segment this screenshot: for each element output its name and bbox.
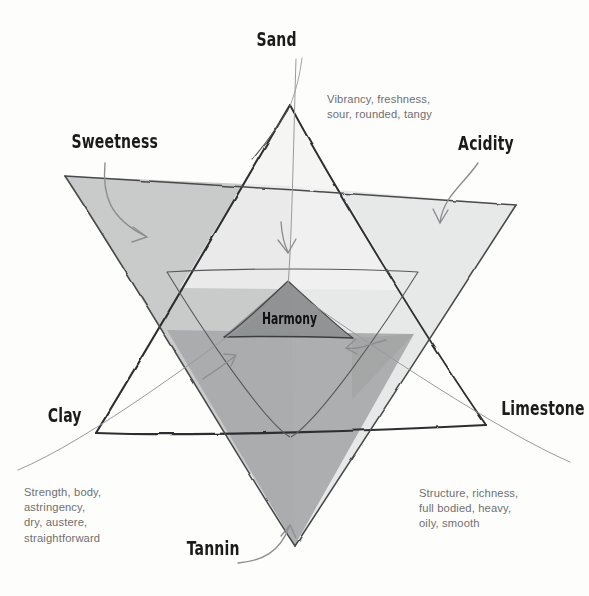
vertex-label-sweetness: Sweetness	[71, 132, 157, 151]
limestone-descriptor: Structure, richness, full bodied, heavy,…	[419, 486, 518, 532]
vertex-label-tannin: Tannin	[187, 539, 240, 558]
vertex-label-acidity: Acidity	[458, 134, 514, 153]
vertex-label-sand: Sand	[256, 30, 296, 49]
harmony-label: Harmony	[262, 312, 317, 327]
acidity-descriptor: Vibrancy, freshness, sour, rounded, tang…	[327, 92, 432, 122]
tannin-descriptor: Strength, body, astringency, dry, auster…	[24, 485, 101, 546]
vertex-label-limestone: Limestone	[501, 399, 584, 418]
diagram-canvas: Sand Sweetness Acidity Clay Limestone Ta…	[0, 0, 589, 596]
arrow-tannin	[238, 525, 296, 563]
vertex-label-clay: Clay	[48, 406, 82, 425]
